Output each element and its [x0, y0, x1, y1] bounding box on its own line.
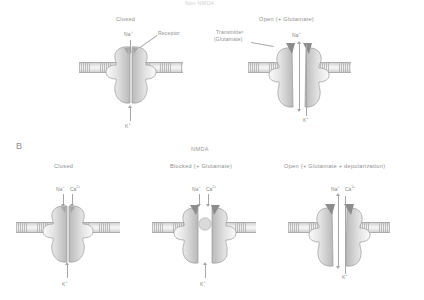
- panel-b-open-na-label: Na+: [331, 186, 340, 192]
- panel-b-open-k-flux-line: [345, 196, 346, 274]
- panel-b-open-k-label: K+: [342, 274, 348, 280]
- panel-b-closed-k-label: K+: [62, 281, 68, 287]
- ion-na-charge: +: [338, 185, 340, 189]
- ion-na-charge: +: [199, 185, 201, 189]
- panel-b-open-receptor-left-subunit: [308, 202, 338, 268]
- panel-b-blocked-state-label: Blocked (+ Glutamate): [170, 164, 232, 170]
- ion-ca-charge: 2+: [351, 185, 355, 189]
- ion-na-charge: +: [63, 185, 65, 189]
- ion-na-text: Na: [292, 32, 299, 38]
- figure-top-title: Non-NMDA: [185, 1, 214, 6]
- panel-b-closed-k-efflux-arrow: [67, 265, 68, 278]
- panel-a-closed-receptor: [102, 45, 160, 107]
- ion-na-text: Na: [56, 186, 63, 192]
- ion-k-charge: +: [66, 280, 68, 284]
- ion-k-charge: +: [346, 273, 348, 277]
- panel-a-open-receptor-left-subunit: [268, 42, 298, 110]
- panel-a-open-na-label: Na+: [292, 32, 301, 38]
- figure-canvas: Non-NMDA Closed Na+ Receptor: [0, 0, 424, 300]
- ion-na-text: Na: [124, 31, 131, 37]
- panel-b-blocked-k-label: K+: [200, 281, 206, 287]
- panel-b-closed-na-label: Na+: [56, 186, 65, 192]
- ion-ca-charge: 2+: [76, 185, 80, 189]
- panel-a-open-k-label: K+: [303, 117, 309, 123]
- ion-k-charge: +: [204, 280, 206, 284]
- panel-a-transmitter-label-line1: Transmitter: [216, 30, 243, 35]
- panel-a-open-state-label: Open (+ Glutamate): [259, 17, 314, 23]
- panel-a-transmitter-label-line2: (Glutamate): [214, 37, 243, 42]
- panel-b-closed-receptor: [39, 204, 97, 266]
- panel-b-letter: B: [16, 142, 22, 151]
- panel-a-open-receptor-right-subunit: [300, 42, 330, 110]
- panel-b-open-ca-label: Ca2+: [345, 186, 355, 192]
- panel-b-blocked-na-label: Na+: [192, 186, 201, 192]
- panel-b-closed-na-influx-arrow: [63, 194, 64, 204]
- ion-na-text: Na: [331, 186, 338, 192]
- panel-a-closed-k-efflux-arrow: [130, 108, 131, 121]
- panel-a-closed-na-label: Na+: [124, 31, 133, 37]
- panel-b-subtitle: NMDA: [191, 147, 209, 153]
- panel-a-receptor-label: Receptor: [158, 31, 180, 36]
- panel-b-blocked-ca-label: Ca2+: [206, 186, 216, 192]
- panel-b-blocked-receptor: [172, 202, 238, 266]
- panel-b-open-cation-flux-arrow: [338, 196, 339, 266]
- panel-a-closed-k-label: K+: [125, 123, 131, 129]
- ion-na-charge: +: [299, 31, 301, 35]
- panel-b-blocked-k-efflux-arrow: [205, 265, 206, 278]
- ion-k-charge: +: [307, 116, 309, 120]
- panel-a-closed-state-label: Closed: [116, 17, 135, 23]
- panel-a-open-na-flux-arrow: [299, 44, 300, 109]
- ion-na-charge: +: [131, 30, 133, 34]
- ion-k-charge: +: [129, 122, 131, 126]
- panel-b-open-state-label: Open (+ Glutamate + depolarization): [284, 164, 385, 170]
- ion-ca-charge: 2+: [212, 185, 216, 189]
- panel-b-closed-state-label: Closed: [54, 164, 73, 170]
- panel-a-open-k-flux-line: [306, 44, 307, 116]
- panel-b-closed-ca-influx-arrow: [72, 194, 73, 204]
- ion-na-text: Na: [192, 186, 199, 192]
- panel-b-closed-ca-label: Ca2+: [70, 186, 80, 192]
